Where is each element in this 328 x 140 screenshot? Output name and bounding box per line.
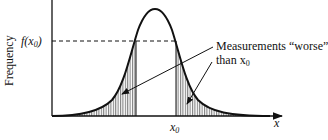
x-axis-label: x (274, 117, 279, 129)
annotation-arrow-right (187, 62, 212, 104)
annotation-line-2: than x0 (216, 54, 250, 68)
x0-label: x0 (170, 121, 179, 135)
y-axis-label: Frequency (3, 35, 15, 86)
fx0-label: f(x0) (21, 35, 42, 49)
annotation-line-1: Measurements “worse” (216, 40, 328, 52)
